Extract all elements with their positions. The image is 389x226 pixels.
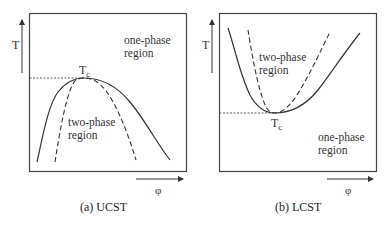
ucst-two-phase-region-label: two-phase region [68,116,115,142]
lcst-y-axis-label: T [202,38,209,53]
lcst-critical-temp-label: Tc [271,116,282,132]
ucst-one-phase-region-label: one-phase region [124,34,171,60]
ucst-y-axis-label: T [12,38,19,53]
lcst-one-phase-region-label: one-phase region [318,131,365,157]
ucst-critical-temp-label: Tc [79,63,90,79]
ucst-caption: (a) UCST [80,200,127,215]
lcst-two-phase-region-label: two-phase region [259,51,306,77]
phase-diagrams-canvas [0,0,389,226]
lcst-caption: (b) LCST [275,200,321,215]
ucst-x-axis-label: φ [155,184,161,196]
lcst-x-axis-label: φ [345,184,351,196]
